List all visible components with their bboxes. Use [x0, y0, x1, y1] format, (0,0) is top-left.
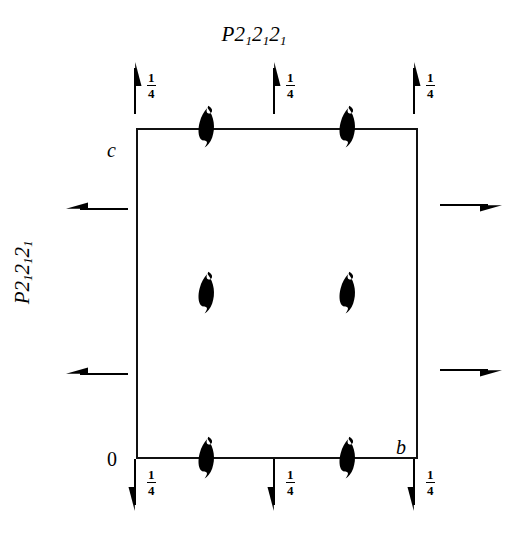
fraction-denominator: 4	[286, 86, 295, 100]
axis-label-b: b	[396, 437, 406, 457]
fraction-denominator: 4	[147, 483, 156, 497]
screw-axis-vertical-bottom-2: 1 4	[267, 459, 313, 515]
screw-axis-bottom-left	[194, 436, 220, 482]
height-fraction-label: 1 4	[147, 468, 156, 497]
screw-axis-top-left	[194, 105, 220, 151]
height-fraction-label: 1 4	[147, 71, 156, 100]
height-fraction-label: 1 4	[286, 71, 295, 100]
fraction-denominator: 4	[147, 86, 156, 100]
screw-axis-vertical-bottom-3: 1 4	[407, 459, 453, 515]
screw-axis-middle-right	[335, 271, 361, 317]
space-group-diagram: P212121 P212121 c 0 b	[0, 0, 508, 537]
height-fraction-label: 1 4	[286, 468, 295, 497]
space-group-title-left: P212121	[10, 187, 37, 357]
fraction-denominator: 4	[426, 86, 435, 100]
fraction-numerator: 1	[286, 71, 295, 86]
height-fraction-label: 1 4	[426, 71, 435, 100]
axis-label-origin: 0	[107, 449, 117, 469]
axis-label-c: c	[107, 140, 116, 160]
screw-axis-horizontal-right-upper	[440, 197, 502, 217]
space-group-title-top-text: P212121	[221, 22, 286, 46]
screw-axis-horizontal-left-lower	[66, 362, 128, 382]
screw-axis-bottom-right	[335, 436, 361, 482]
fraction-numerator: 1	[147, 71, 156, 86]
screw-axis-vertical-top-1: 1 4	[128, 62, 174, 118]
fraction-numerator: 1	[286, 468, 295, 483]
fraction-denominator: 4	[286, 483, 295, 497]
height-fraction-label: 1 4	[426, 468, 435, 497]
unit-cell-outline	[136, 128, 418, 459]
screw-axis-top-right	[335, 105, 361, 151]
screw-axis-horizontal-left-upper	[66, 197, 128, 217]
screw-axis-vertical-bottom-1: 1 4	[128, 459, 174, 515]
fraction-denominator: 4	[426, 483, 435, 497]
fraction-numerator: 1	[426, 468, 435, 483]
space-group-title-left-text: P212121	[10, 240, 34, 304]
screw-axis-vertical-top-2: 1 4	[267, 62, 313, 118]
fraction-numerator: 1	[426, 71, 435, 86]
screw-axis-vertical-top-3: 1 4	[407, 62, 453, 118]
space-group-title-top: P212121	[0, 22, 508, 49]
fraction-numerator: 1	[147, 468, 156, 483]
screw-axis-middle-left	[194, 271, 220, 317]
screw-axis-horizontal-right-lower	[440, 362, 502, 382]
